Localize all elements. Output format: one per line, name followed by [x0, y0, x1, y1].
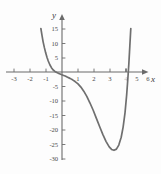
y-tick-labels: 15 10 5 -5 -10 -15 -20 -25 -30: [50, 25, 59, 162]
y-label--20: -20: [50, 126, 59, 133]
x-label-3: 3: [108, 75, 112, 82]
y-label-5: 5: [55, 54, 59, 61]
x-label-1: 1: [76, 75, 79, 82]
y-label-10: 10: [51, 40, 58, 47]
y-label--25: -25: [50, 141, 59, 148]
y-label--15: -15: [50, 112, 59, 119]
x-label--3: -3: [11, 75, 17, 82]
figure-container: -3 -2 -1 1 2 3 4 5 6 15 10 5 -5 -10 -15 …: [0, 0, 161, 174]
x-label-5: 5: [135, 75, 139, 82]
y-label-15: 15: [51, 25, 58, 32]
x-tick-labels: -3 -2 -1 1 2 3 4 5 6: [11, 75, 150, 82]
x-label--1: -1: [43, 75, 48, 82]
x-label-6: 6: [146, 75, 150, 82]
x-label-2: 2: [92, 75, 95, 82]
y-axis-arrow-icon: [59, 14, 65, 20]
plot-svg: -3 -2 -1 1 2 3 4 5 6 15 10 5 -5 -10 -15 …: [0, 0, 161, 174]
y-axis-label: y: [51, 10, 56, 20]
y-label--5: -5: [53, 83, 59, 90]
y-label--10: -10: [50, 97, 59, 104]
x-label--2: -2: [27, 75, 32, 82]
x-axis-label: x: [150, 74, 155, 84]
x-axis-arrow-icon: [142, 69, 149, 75]
y-label--30: -30: [50, 155, 59, 162]
